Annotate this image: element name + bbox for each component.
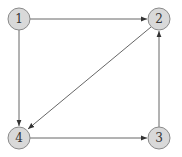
node-2-label: 2 [155, 12, 163, 26]
graph-diagram: 1 2 3 4 [0, 0, 182, 157]
node-3: 3 [148, 127, 170, 149]
node-2: 2 [148, 8, 170, 30]
edge-2-to-4 [28, 27, 151, 129]
node-3-label: 3 [155, 131, 163, 145]
node-1-label: 1 [15, 12, 23, 26]
node-4-label: 4 [15, 131, 23, 145]
node-4: 4 [8, 127, 30, 149]
node-1: 1 [8, 8, 30, 30]
